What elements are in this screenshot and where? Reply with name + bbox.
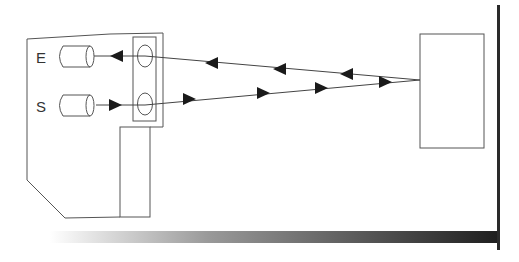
sensor-housing [27,33,163,218]
sender-lens [138,93,153,115]
floor-gradient-bar [50,231,499,243]
arrow-right-icon [109,99,122,111]
reflective-sensor-diagram: E S [0,0,519,262]
arrow-left-icon [340,68,353,80]
sensor-pedestal [120,127,150,217]
reflector-target [420,34,484,148]
sensor-window [133,37,156,121]
label-e: E [36,49,46,66]
arrow-right-icon [257,87,270,99]
arrow-left-icon [205,57,218,69]
arrow-right-icon [315,82,328,94]
return-arrows [110,50,353,80]
sender-cylinder [60,95,95,116]
arrow-right-icon [183,93,196,105]
diagram-canvas: E S [0,0,519,262]
arrow-left-icon [273,63,286,75]
label-s: S [36,98,46,115]
outgoing-arrows [109,76,392,111]
arrow-left-icon [110,50,123,62]
receiver-cylinder [60,46,95,67]
wall-line [497,5,500,250]
